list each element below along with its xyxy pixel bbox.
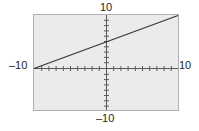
x-axis-max-label: 10 [179, 60, 191, 71]
y-axis-max-label: 10 [100, 2, 112, 13]
y-axis-min-label: –10 [96, 113, 114, 124]
x-axis-min-label: –10 [9, 60, 27, 71]
coordinate-plane-graph: 10 –10 –10 10 [0, 0, 199, 131]
